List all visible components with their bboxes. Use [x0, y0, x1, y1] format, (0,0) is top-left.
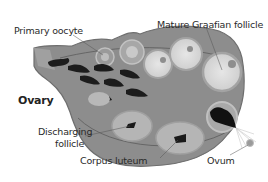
- mature-graafian-follicle: [203, 53, 241, 91]
- corpus-albicans: [88, 92, 110, 106]
- label-mature-graafian-follicle: Mature Graafian follicle: [157, 19, 263, 30]
- label-ovary: Ovary: [18, 95, 54, 106]
- label-discharging-follicle-line1: Discharging: [38, 126, 92, 137]
- label-discharging-follicle-line2: follicle: [55, 138, 84, 149]
- rupturing-follicle: [207, 102, 237, 132]
- label-ovum: Ovum: [207, 155, 235, 166]
- discharging-follicle: [112, 111, 152, 141]
- ovary-diagram: Primary oocyte Mature Graafian follicle …: [0, 0, 268, 182]
- label-primary-oocyte: Primary oocyte: [14, 25, 83, 36]
- corpus-luteum: [156, 122, 204, 154]
- label-corpus-luteum: Corpus luteum: [80, 155, 147, 166]
